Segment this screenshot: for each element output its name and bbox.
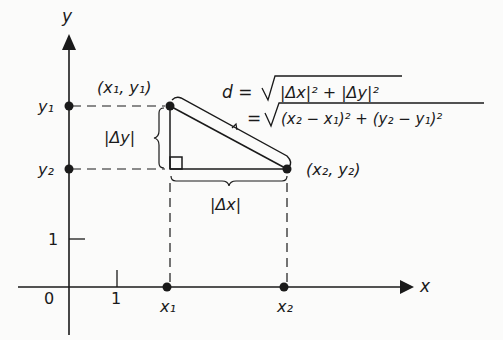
x-tick-label: 1	[111, 289, 121, 308]
formula-line1-lhs: d =	[222, 82, 252, 102]
y1-label: y₁	[37, 97, 54, 116]
origin-label: 0	[44, 289, 54, 308]
delta-x-brace	[171, 176, 287, 186]
x-axis-label: x	[419, 276, 431, 296]
right-angle-marker	[170, 157, 182, 169]
point-p1-label: (x₁, y₁)	[97, 78, 151, 97]
point-p2-label: (x₂, y₂)	[306, 160, 360, 179]
distance-formula: d = |Δx|² + |Δy|² = (x₂ − x₁)² + (y₂ − y…	[222, 76, 484, 128]
formula-line1-rhs: |Δx|² + |Δy|²	[280, 83, 379, 102]
delta-x-label: |Δx|	[210, 195, 241, 214]
delta-y-brace	[154, 108, 164, 168]
formula-line2-rhs: (x₂ − x₁)² + (y₂ − y₁)²	[281, 110, 442, 128]
y-axis-arrow-icon	[62, 34, 76, 50]
point-y2	[65, 165, 74, 174]
point-y1	[65, 102, 74, 111]
point-x1	[163, 283, 172, 292]
x2-label: x₂	[276, 297, 293, 316]
delta-y-label: |Δy|	[104, 128, 135, 147]
point-p1	[166, 102, 175, 111]
x1-label: x₁	[159, 297, 176, 316]
x-axis	[18, 280, 414, 294]
point-p2	[283, 165, 292, 174]
y-tick-label: 1	[48, 230, 58, 249]
point-x2	[280, 283, 289, 292]
hypotenuse-brace	[172, 97, 291, 167]
y-axis	[62, 34, 76, 335]
formula-line2-lhs: =	[247, 108, 261, 128]
plotted-points	[65, 102, 292, 292]
x-axis-arrow-icon	[400, 280, 414, 294]
right-triangle	[170, 106, 287, 169]
y2-label: y₂	[37, 160, 54, 179]
y-axis-label: y	[61, 6, 73, 26]
distance-formula-diagram: y x 0 1 1 y₁ y₂ x₁ x₂ (x₁, y₁) (x₂, y₂) …	[0, 0, 503, 340]
